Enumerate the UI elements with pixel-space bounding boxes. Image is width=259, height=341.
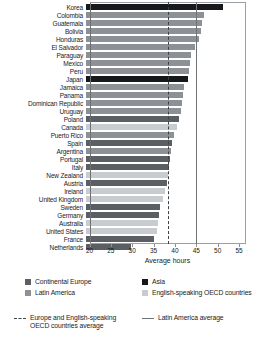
bar [86, 148, 171, 154]
bar-track [86, 75, 259, 83]
bar-track [86, 211, 259, 219]
bar-row: Dominican Republic [0, 99, 259, 107]
dashed-line-icon [14, 318, 26, 319]
legend-item-latin-america: Latin America [25, 289, 75, 297]
bar-category-label: Colombia [0, 12, 86, 19]
y-axis-line [90, 2, 91, 244]
bar-track [86, 147, 259, 155]
bar-track [86, 43, 259, 51]
bar-category-label: Peru [0, 68, 86, 75]
bar-track [86, 227, 259, 235]
bar [86, 68, 189, 74]
bar-track [86, 91, 259, 99]
bar-row: Puerto Rico [0, 131, 259, 139]
bar [86, 12, 204, 18]
bar-row: Australia [0, 219, 259, 227]
bar-category-label: United Kingdom [0, 196, 86, 203]
bar [86, 204, 160, 210]
bar-track [86, 155, 259, 163]
bar [86, 164, 169, 170]
bar-category-label: Paraguay [0, 52, 86, 59]
bar-category-label: Portugal [0, 156, 86, 163]
bar-track [86, 235, 259, 243]
bar-category-label: Argentina [0, 148, 86, 155]
bar-row: Sweden [0, 203, 259, 211]
bar-row: Jamaica [0, 83, 259, 91]
x-tick-label: 35 [150, 247, 157, 255]
bar-category-label: Austria [0, 180, 86, 187]
x-axis-title: Average hours [89, 257, 246, 264]
bar-track [86, 139, 259, 147]
bar-track [86, 35, 259, 43]
bar-track [86, 59, 259, 67]
bar-category-label: France [0, 236, 86, 243]
bar-rows: KoreaColombiaGuatemalaBoliviaHondurasEl … [0, 3, 259, 251]
bar-track [86, 27, 259, 35]
bar-track [86, 115, 259, 123]
bar-category-label: Japan [0, 76, 86, 83]
legend-label-latin-average: Latin America average [158, 314, 224, 322]
bar-row: Austria [0, 179, 259, 187]
legend-item-english-speaking: English-speaking OECD countries [142, 289, 254, 297]
bar-row: Honduras [0, 35, 259, 43]
bar-category-label: Germany [0, 212, 86, 219]
bar [86, 140, 172, 146]
legend-label-latin-america: Latin America [35, 289, 75, 297]
bar [86, 196, 163, 202]
bar [86, 28, 201, 34]
x-tick-label: 20 [86, 247, 93, 255]
x-tick-label: 55 [235, 247, 242, 255]
bar-track [86, 107, 259, 115]
bar [86, 60, 190, 66]
bar-row: Guatemala [0, 19, 259, 27]
bar-track [86, 203, 259, 211]
legend-swatch-continental-europe [25, 279, 31, 285]
reference-line-oecd-average [168, 2, 169, 244]
x-tick-label: 50 [214, 247, 221, 255]
bar-row: France [0, 235, 259, 243]
bar-category-label: Puerto Rico [0, 132, 86, 139]
bar-category-label: United States [0, 228, 86, 235]
bar-row: Germany [0, 211, 259, 219]
bar-category-label: Spain [0, 140, 86, 147]
bar-row: Poland [0, 115, 259, 123]
legend-label-asia: Asia [152, 278, 165, 286]
bar-category-label: Australia [0, 220, 86, 227]
bar-track [86, 187, 259, 195]
bar [86, 44, 195, 50]
bar-category-label: Sweden [0, 204, 86, 211]
legend-item-latin-average: Latin America average [142, 314, 258, 322]
bar-row: Panama [0, 91, 259, 99]
bar-track [86, 219, 259, 227]
reference-line-latin-average [196, 2, 197, 244]
bar-track [86, 83, 259, 91]
bar [86, 4, 223, 10]
bar-row: Mexico [0, 59, 259, 67]
bar [86, 36, 199, 42]
legend-label-continental-europe: Continental Europe [35, 278, 91, 286]
bar-track [86, 3, 259, 11]
bar [86, 212, 159, 218]
legend-item-asia: Asia [142, 278, 165, 286]
bar-category-label: Dominican Republic [0, 100, 86, 107]
bar-track [86, 163, 259, 171]
bar-row: United Kingdom [0, 195, 259, 203]
bar-row: Canada [0, 123, 259, 131]
chart-legend: Continental Europe Latin America Asia En… [0, 277, 259, 341]
bar-category-label: New Zealand [0, 172, 86, 179]
bar [86, 124, 177, 130]
bar [86, 180, 167, 186]
legend-swatch-asia [142, 279, 148, 285]
bar-track [86, 19, 259, 27]
bar-row: Korea [0, 3, 259, 11]
bar-track [86, 51, 259, 59]
bar [86, 52, 191, 58]
bar [86, 172, 168, 178]
plot-area: KoreaColombiaGuatemalaBoliviaHondurasEl … [0, 0, 259, 255]
bar-track [86, 179, 259, 187]
bar-track [86, 171, 259, 179]
bar [86, 188, 165, 194]
legend-swatch-latin-america [25, 290, 31, 296]
x-tick-label: 40 [171, 247, 178, 255]
x-axis-ticks: 2025303540455055 [0, 244, 259, 256]
